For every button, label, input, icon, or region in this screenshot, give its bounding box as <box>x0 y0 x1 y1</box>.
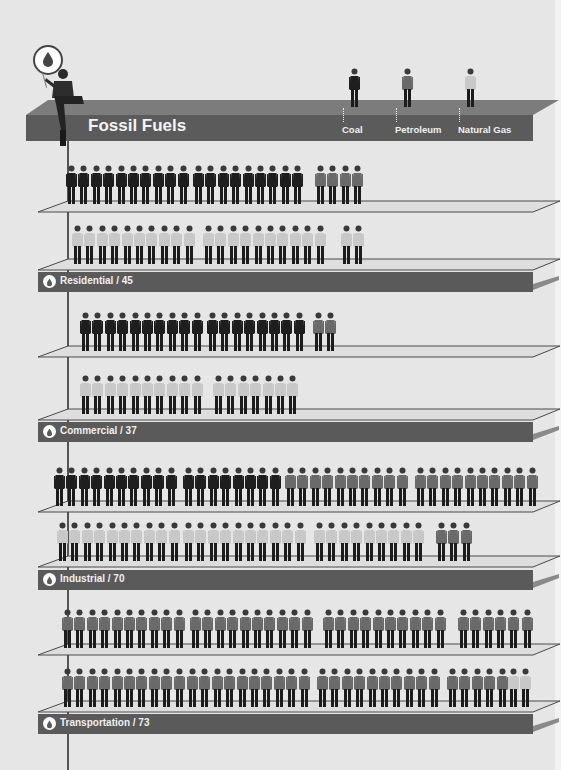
person-figure-petroleum <box>404 668 415 712</box>
person-figure-natural-gas <box>156 522 167 566</box>
person-figure-natural-gas <box>233 522 244 566</box>
person-figure-natural-gas <box>520 668 531 712</box>
person-figure-petroleum <box>502 467 513 511</box>
person-figure-natural-gas <box>142 375 153 419</box>
person-figure-coal <box>166 467 177 511</box>
person-figure-coal <box>153 165 164 209</box>
person-figure-petroleum <box>237 668 248 712</box>
person-figure-coal <box>79 467 90 511</box>
person-figure-natural-gas <box>82 522 93 566</box>
person-figure-petroleum <box>261 668 272 712</box>
person-figure-natural-gas <box>302 225 313 269</box>
person-figure-coal <box>220 467 231 511</box>
person-figure-coal <box>219 312 230 356</box>
person-figure-natural-gas <box>80 375 91 419</box>
person-figure-coal <box>230 165 241 209</box>
person-figure-petroleum <box>410 609 421 653</box>
person-figure-natural-gas <box>290 225 301 269</box>
person-figure-natural-gas <box>326 522 337 566</box>
person-figure-natural-gas <box>179 375 190 419</box>
person-figure-coal <box>195 467 206 511</box>
person-figure-natural-gas <box>353 225 364 269</box>
person-figure-petroleum <box>322 467 333 511</box>
person-figure-coal <box>66 467 77 511</box>
person-figure-petroleum <box>136 668 147 712</box>
person-figure-petroleum <box>62 668 73 712</box>
person-figure-petroleum <box>124 668 135 712</box>
person-figure-petroleum <box>190 609 201 653</box>
person-figure-petroleum <box>360 609 371 653</box>
person-figure-petroleum <box>465 467 476 511</box>
person-figure-petroleum <box>385 609 396 653</box>
person-figure-coal <box>192 312 203 356</box>
person-figure-natural-gas <box>159 225 170 269</box>
person-figure-coal <box>255 165 266 209</box>
person-figure-coal <box>257 312 268 356</box>
person-figure-natural-gas <box>265 225 276 269</box>
person-figure-coal <box>167 312 178 356</box>
person-figure-coal <box>91 165 102 209</box>
person-figure-petroleum <box>416 668 427 712</box>
person-figure-petroleum <box>124 609 135 653</box>
person-figure-natural-gas <box>146 225 157 269</box>
person-figure-coal <box>116 467 127 511</box>
person-figure-natural-gas <box>213 375 224 419</box>
person-figure-natural-gas <box>295 522 306 566</box>
person-figure-petroleum <box>297 467 308 511</box>
person-figure-coal <box>281 312 292 356</box>
person-figure-petroleum <box>202 609 213 653</box>
person-figure-petroleum <box>310 467 321 511</box>
person-figure-coal <box>208 467 219 511</box>
person-figure-petroleum <box>379 668 390 712</box>
person-figure-petroleum <box>264 609 275 653</box>
person-figure-coal <box>141 467 152 511</box>
person-figure-petroleum <box>299 668 310 712</box>
person-figure-coal <box>91 467 102 511</box>
person-figure-petroleum <box>452 467 463 511</box>
person-figure-coal <box>280 165 291 209</box>
person-figure-natural-gas <box>131 522 142 566</box>
person-figure-coal <box>140 165 151 209</box>
person-figure-natural-gas <box>107 522 118 566</box>
person-figure-coal <box>128 165 139 209</box>
person-figure-petroleum <box>215 609 226 653</box>
person-figure-petroleum <box>508 609 519 653</box>
person-figure-natural-gas <box>167 375 178 419</box>
person-figure-petroleum <box>484 668 495 712</box>
person-figure-petroleum <box>497 668 508 712</box>
person-figure-natural-gas <box>72 225 83 269</box>
person-figure-natural-gas <box>154 375 165 419</box>
person-figure-petroleum <box>325 312 336 356</box>
person-figure-petroleum <box>495 609 506 653</box>
person-figure-petroleum <box>397 609 408 653</box>
person-figure-natural-gas <box>122 225 133 269</box>
person-figure-coal <box>153 467 164 511</box>
person-figure-natural-gas <box>130 375 141 419</box>
person-figure-petroleum <box>99 668 110 712</box>
person-figure-petroleum <box>249 668 260 712</box>
person-figure-coal <box>232 312 243 356</box>
person-figure-coal <box>105 312 116 356</box>
person-figure-petroleum <box>252 609 263 653</box>
person-figure-petroleum <box>347 467 358 511</box>
person-figure-natural-gas <box>220 522 231 566</box>
person-figure-natural-gas <box>94 522 105 566</box>
person-figure-petroleum <box>335 609 346 653</box>
person-figure-coal <box>233 467 244 511</box>
person-figure-petroleum <box>74 609 85 653</box>
person-figure-coal <box>245 467 256 511</box>
person-figure-petroleum <box>483 609 494 653</box>
person-figure-petroleum <box>286 668 297 712</box>
person-figure-coal <box>257 467 268 511</box>
person-figure-coal <box>80 312 91 356</box>
person-figure-natural-gas <box>388 522 399 566</box>
person-figure-natural-gas <box>225 375 236 419</box>
person-figure-coal <box>243 165 254 209</box>
person-figure-coal <box>294 312 305 356</box>
person-figure-natural-gas <box>270 522 281 566</box>
person-figure-coal <box>218 165 229 209</box>
person-figure-natural-gas <box>119 522 130 566</box>
person-figure-petroleum <box>323 609 334 653</box>
person-figure-petroleum <box>302 609 313 653</box>
person-figure-petroleum <box>174 609 185 653</box>
